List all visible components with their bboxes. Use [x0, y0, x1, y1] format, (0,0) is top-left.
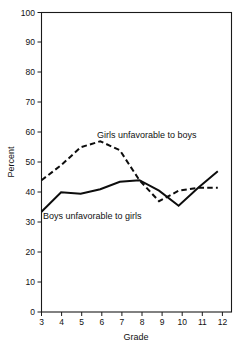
x-tick-label: 11	[198, 317, 207, 327]
series-boys-unfavorable-to-girls	[42, 171, 218, 211]
x-tick-label: 7	[120, 317, 125, 327]
annotation-girls-unfavorable-to-boys: Girls unfavorable to boys	[97, 130, 197, 140]
x-tick-label: 9	[160, 317, 165, 327]
x-tick-label: 6	[99, 317, 104, 327]
y-tick-label: 60	[26, 127, 36, 137]
y-tick-label: 50	[26, 157, 36, 167]
x-tick-label: 5	[79, 317, 84, 327]
y-tick-label: 70	[26, 97, 36, 107]
y-tick-label: 80	[26, 67, 36, 77]
y-tick-label: 40	[26, 187, 36, 197]
x-tick-label: 8	[140, 317, 145, 327]
y-tick-label: 100	[21, 8, 35, 18]
y-tick-label: 10	[26, 277, 36, 287]
y-tick-label: 90	[26, 37, 36, 47]
x-axis-title: Grade	[123, 332, 148, 342]
x-axis-ticks	[42, 312, 223, 316]
x-tick-label: 12	[218, 317, 228, 327]
x-axis-tick-labels: 3 4 5 6 7 8 9 10 11 12	[39, 317, 227, 327]
y-axis-title: Percent	[6, 146, 16, 178]
y-tick-label: 0	[30, 307, 35, 317]
y-axis-tick-labels: 0 10 20 30 40 50 60 70 80 90 100	[21, 8, 35, 317]
plot-frame	[42, 13, 232, 313]
annotation-boys-unfavorable-to-girls: Boys unfavorable to girls	[43, 211, 142, 221]
x-tick-label: 4	[59, 317, 64, 327]
y-axis-ticks	[38, 13, 42, 313]
chart-figure: 0 10 20 30 40 50 60 70 80 90 100	[0, 0, 250, 344]
y-tick-label: 20	[26, 247, 36, 257]
x-tick-label: 10	[177, 317, 187, 327]
x-tick-label: 3	[39, 317, 44, 327]
percent-by-grade-line-chart: 0 10 20 30 40 50 60 70 80 90 100	[0, 0, 250, 344]
y-tick-label: 30	[26, 217, 36, 227]
